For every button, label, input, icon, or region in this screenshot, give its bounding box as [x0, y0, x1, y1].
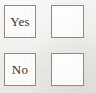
checkbox-yes[interactable] [51, 5, 84, 38]
option-label-no: No [12, 63, 28, 76]
option-label-yes: Yes [10, 15, 30, 28]
yes-no-checkbox-grid: Yes No [0, 0, 96, 93]
option-label-box-yes[interactable]: Yes [4, 5, 36, 38]
checkbox-no[interactable] [51, 53, 84, 86]
option-label-box-no[interactable]: No [4, 53, 36, 86]
document-page: Yes No [0, 0, 96, 93]
